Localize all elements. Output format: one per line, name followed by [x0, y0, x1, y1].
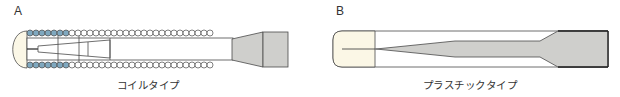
plastic-type-diagram [0, 0, 620, 80]
panel-b-caption: プラスチックタイプ [423, 77, 518, 92]
